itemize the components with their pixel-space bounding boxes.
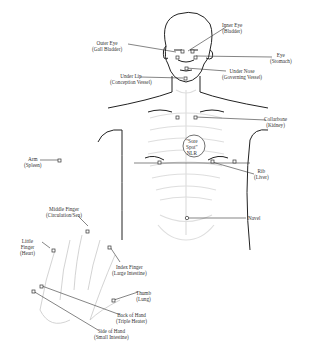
label-arm: Arm(Spleen) — [24, 156, 42, 168]
label-rib: Rib(Liver) — [254, 168, 269, 180]
label-navel: Navel — [248, 215, 260, 221]
label-collarbone: Collarbone(Kidney) — [264, 116, 287, 128]
label-inner-eye: Inner Eye(Bladder) — [222, 22, 242, 34]
label-side-of-hand: Side of Hand(Small Intestine) — [94, 328, 129, 340]
label-under-nose: Under Nose(Governing Vessel) — [222, 68, 262, 80]
label-middle-finger: Middle Finger(Circulation/Sex) — [46, 206, 82, 218]
label-index-finger: Index Finger(Large Intestine) — [112, 264, 147, 276]
label-eye: Eye(Stomach) — [270, 52, 292, 64]
body-outline — [98, 12, 268, 250]
label-little-finger: LittleFinger(Heart) — [20, 238, 35, 256]
label-under-lip: Under Lip(Conception Vessel) — [110, 73, 152, 85]
label-sore-spot: "SoreSpot"NLR — [186, 138, 198, 156]
label-back-of-hand: Back of Hand(Triple Heater) — [116, 312, 147, 324]
label-thumb: Thumb(Lung) — [136, 290, 151, 302]
label-outer-eye: Outer Eye(Gall Bladder) — [92, 40, 122, 52]
